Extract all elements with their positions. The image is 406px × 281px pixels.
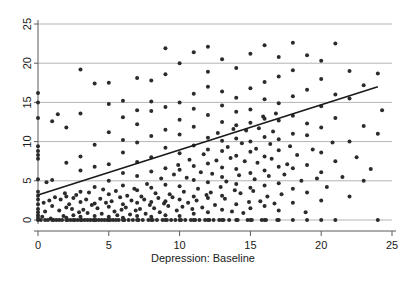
data-point <box>163 72 167 76</box>
data-point <box>299 179 303 183</box>
data-point <box>107 130 111 134</box>
data-point <box>305 133 309 137</box>
data-point <box>149 186 153 190</box>
y-tick-label-25: 25 <box>21 18 33 30</box>
data-point <box>145 182 149 186</box>
data-point <box>190 207 194 211</box>
data-point <box>220 120 224 124</box>
data-point <box>291 166 295 170</box>
data-point <box>277 101 281 105</box>
data-point <box>64 205 68 209</box>
data-point <box>376 218 380 222</box>
data-point <box>168 192 172 196</box>
data-point <box>277 218 281 222</box>
data-point <box>36 100 40 104</box>
data-point <box>149 78 153 82</box>
data-point <box>135 108 139 112</box>
data-point <box>36 149 40 153</box>
data-point <box>78 200 82 204</box>
data-point <box>220 104 224 108</box>
data-point <box>47 198 51 202</box>
data-point <box>237 173 241 177</box>
data-point <box>268 142 272 146</box>
data-point <box>305 191 309 195</box>
data-point <box>248 150 252 154</box>
data-point <box>172 173 176 177</box>
data-point <box>98 197 102 201</box>
data-point <box>134 209 138 213</box>
data-point <box>220 165 224 169</box>
data-point <box>64 194 68 198</box>
data-point <box>107 81 111 85</box>
data-point <box>163 183 167 187</box>
data-point <box>212 218 216 222</box>
data-point <box>180 205 184 209</box>
data-point <box>206 70 210 74</box>
data-point <box>178 61 182 65</box>
data-point <box>263 117 267 121</box>
data-point <box>247 200 251 204</box>
data-point <box>192 125 196 129</box>
data-point <box>291 218 295 222</box>
data-point <box>192 178 196 182</box>
data-point <box>355 155 359 159</box>
data-point <box>376 132 380 136</box>
data-point <box>124 205 128 209</box>
data-point <box>248 52 252 56</box>
data-point <box>319 125 323 129</box>
x-tick-label-10: 10 <box>173 239 185 251</box>
data-point <box>50 178 54 182</box>
data-point <box>121 151 125 155</box>
y-tick-label-15: 15 <box>21 96 33 108</box>
y-tick-label-0: 0 <box>21 217 33 223</box>
data-point <box>202 152 206 156</box>
data-point <box>165 218 169 222</box>
data-point <box>319 151 323 155</box>
data-point <box>248 186 252 190</box>
data-point <box>131 218 135 222</box>
data-point <box>348 69 352 73</box>
data-point <box>333 42 337 46</box>
data-point <box>206 180 210 184</box>
data-point <box>36 144 40 148</box>
data-point <box>192 194 196 198</box>
data-point <box>135 201 139 205</box>
data-point <box>234 202 238 206</box>
data-point <box>192 107 196 111</box>
data-point <box>93 143 97 147</box>
data-point <box>210 172 214 176</box>
data-point <box>222 218 226 222</box>
data-point <box>121 138 125 142</box>
data-point <box>291 201 295 205</box>
data-point <box>173 218 177 222</box>
data-point <box>234 154 238 158</box>
data-point <box>234 66 238 70</box>
data-point <box>78 155 82 159</box>
y-tick-label-5: 5 <box>21 178 33 184</box>
data-point <box>171 195 175 199</box>
data-point <box>229 156 233 160</box>
data-point <box>141 218 145 222</box>
data-point <box>156 196 160 200</box>
data-point <box>84 198 88 202</box>
data-point <box>144 212 148 216</box>
data-point <box>36 153 40 157</box>
data-point <box>149 200 153 204</box>
data-point <box>178 214 182 218</box>
data-point <box>369 167 373 171</box>
data-point <box>192 212 196 216</box>
data-point <box>288 144 292 148</box>
data-point <box>380 108 384 112</box>
data-point <box>56 112 60 116</box>
data-point <box>233 188 237 192</box>
data-point <box>163 46 167 50</box>
data-point <box>257 126 261 130</box>
data-point <box>195 198 199 202</box>
data-point <box>135 140 139 144</box>
data-point <box>178 198 182 202</box>
data-point <box>67 202 71 206</box>
data-point <box>175 209 179 213</box>
data-point <box>291 94 295 98</box>
data-point <box>348 140 352 144</box>
data-point <box>234 96 238 100</box>
